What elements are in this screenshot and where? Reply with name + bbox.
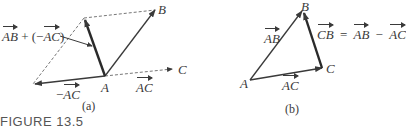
point-a-b: A xyxy=(240,77,248,90)
cb-equation: CB = AB − AC xyxy=(317,28,406,41)
vector-ac-dashed xyxy=(105,69,172,76)
vector-ac-label: AC xyxy=(43,30,60,43)
vector-ab xyxy=(105,10,155,76)
leader-line xyxy=(60,36,92,46)
ab-label-b: AB xyxy=(264,32,280,45)
vector-neg-ac xyxy=(35,76,105,84)
ac-label-a: AC xyxy=(136,81,153,94)
neg-ac-text: AC xyxy=(63,88,80,101)
ac-label-b: AC xyxy=(282,79,299,92)
vector-ab-label: AB xyxy=(2,30,18,43)
panel-a xyxy=(33,10,172,84)
eq-ab-text: AB xyxy=(353,28,369,41)
ac-text-a: AC xyxy=(136,81,153,94)
vector-resultant xyxy=(85,20,105,76)
neg-ac-label: −AC xyxy=(56,88,80,101)
minus-sign-b: − xyxy=(373,27,386,42)
cb-text: CB xyxy=(317,28,334,41)
eq-ac-text: AC xyxy=(389,28,406,41)
panel-b xyxy=(250,11,322,80)
equals-sign: = xyxy=(337,27,350,42)
ab-text-b: AB xyxy=(264,32,280,45)
plus-neg-label: + (− xyxy=(21,29,43,44)
figure-caption: FIGURE 13.5 xyxy=(0,114,84,129)
ac-text-b: AC xyxy=(282,79,299,92)
resultant-label: AB + (−AC) xyxy=(2,30,64,43)
point-a-a: A xyxy=(101,81,109,94)
panel-b-caption: (b) xyxy=(285,103,299,115)
close-paren: ) xyxy=(60,29,64,44)
point-b-b: B xyxy=(301,0,309,13)
point-c-a: C xyxy=(178,63,187,76)
point-c-b: C xyxy=(326,62,335,75)
dashed-top-edge xyxy=(84,10,155,18)
panel-a-caption: (a) xyxy=(82,100,95,112)
point-b-a: B xyxy=(158,3,166,16)
